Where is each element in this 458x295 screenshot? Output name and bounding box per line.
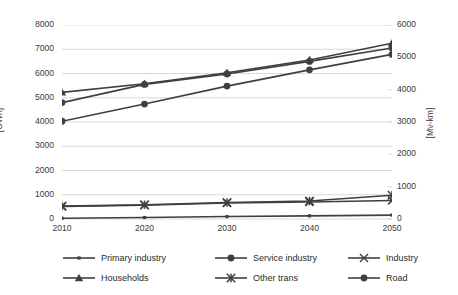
legend-item-other-trans[interactable]: Other trans bbox=[214, 272, 347, 284]
y-axis-left-tick-label: 3000 bbox=[20, 140, 54, 150]
legend-item-road[interactable]: Road bbox=[347, 272, 408, 284]
legend-row-2: Households Other trans Road bbox=[62, 268, 430, 288]
legend-label: Road bbox=[386, 272, 408, 284]
y-axis-left-tick-label: 4000 bbox=[20, 116, 54, 126]
legend-item-industry[interactable]: Industry bbox=[347, 252, 418, 264]
y-axis-right-tick-label: 0 bbox=[397, 213, 431, 223]
data-point-small-square-icon bbox=[143, 216, 146, 219]
legend-marker-circle-icon bbox=[214, 252, 248, 264]
legend-item-service-industry[interactable]: Service industry bbox=[214, 252, 347, 264]
legend-marker-asterisk-icon bbox=[214, 272, 248, 284]
data-point-small-square-icon bbox=[308, 214, 311, 217]
legend-marker-small-square-icon bbox=[62, 252, 96, 264]
legend-label: Service industry bbox=[253, 252, 317, 264]
line-chart: [GWh] [Mv-km] 01000200030004000500060007… bbox=[0, 0, 458, 295]
legend-marker-circle-icon bbox=[347, 272, 381, 284]
x-axis-tick-label: 2010 bbox=[42, 223, 82, 233]
plot-area bbox=[62, 25, 392, 219]
chart-legend: Primary industry Service industry Indust… bbox=[62, 248, 430, 288]
data-point-circle-icon bbox=[224, 83, 231, 90]
y-axis-left-tick-label: 2000 bbox=[20, 165, 54, 175]
y-axis-right-tick-label: 4000 bbox=[397, 84, 431, 94]
data-point-small-square-icon bbox=[390, 214, 392, 217]
y-axis-left-tick-label: 5000 bbox=[20, 92, 54, 102]
data-point-circle-icon bbox=[361, 275, 368, 282]
legend-item-households[interactable]: Households bbox=[62, 272, 214, 284]
data-point-small-square-icon bbox=[225, 215, 228, 218]
data-point-triangle-icon bbox=[388, 39, 392, 46]
data-point-circle-icon bbox=[62, 99, 65, 106]
legend-label: Other trans bbox=[253, 272, 298, 284]
legend-marker-x-cross-icon bbox=[347, 252, 381, 264]
data-point-circle-icon bbox=[228, 255, 235, 262]
data-point-small-square-icon bbox=[62, 217, 64, 220]
plot-svg bbox=[62, 25, 392, 221]
data-point-circle-icon bbox=[62, 118, 65, 125]
y-axis-right-tick-label: 3000 bbox=[397, 116, 431, 126]
legend-label: Primary industry bbox=[101, 252, 166, 264]
data-point-circle-icon bbox=[306, 66, 313, 73]
y-axis-left-tick-label: 0 bbox=[20, 213, 54, 223]
x-axis-tick-label: 2020 bbox=[125, 223, 165, 233]
y-axis-left-tick-label: 6000 bbox=[20, 68, 54, 78]
legend-marker-triangle-icon bbox=[62, 272, 96, 284]
y-axis-right-tick-label: 1000 bbox=[397, 181, 431, 191]
legend-label: Households bbox=[101, 272, 149, 284]
x-axis-tick-label: 2040 bbox=[290, 223, 330, 233]
y-axis-left-title: [GWh] bbox=[0, 108, 4, 133]
x-axis-tick-label: 2030 bbox=[207, 223, 247, 233]
data-point-small-square-icon bbox=[77, 256, 80, 259]
y-axis-left-tick-label: 8000 bbox=[20, 19, 54, 29]
x-axis-tick-label: 2050 bbox=[372, 223, 412, 233]
y-axis-right-tick-label: 6000 bbox=[397, 19, 431, 29]
data-point-circle-icon bbox=[389, 51, 392, 58]
legend-item-primary-industry[interactable]: Primary industry bbox=[62, 252, 214, 264]
legend-row-1: Primary industry Service industry Indust… bbox=[62, 248, 430, 268]
y-axis-left-tick-label: 1000 bbox=[20, 189, 54, 199]
y-axis-right-tick-label: 5000 bbox=[397, 51, 431, 61]
data-point-circle-icon bbox=[141, 101, 148, 108]
y-axis-left-tick-label: 7000 bbox=[20, 43, 54, 53]
legend-label: Industry bbox=[386, 252, 418, 264]
y-axis-right-tick-label: 2000 bbox=[397, 148, 431, 158]
